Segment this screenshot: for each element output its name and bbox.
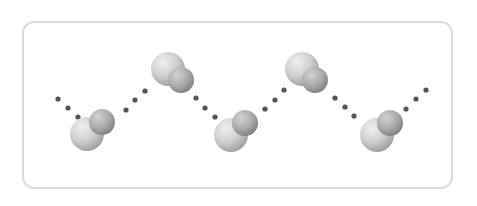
bond-dot: [123, 107, 128, 112]
hydrogen-atom: [232, 110, 258, 136]
bond-dot: [281, 87, 286, 92]
water-chain-diagram: [0, 0, 477, 206]
bond-dot: [193, 95, 198, 100]
water-molecule: [285, 52, 328, 93]
water-molecules: [70, 52, 403, 152]
bond-dot: [65, 105, 70, 110]
bond-dot: [423, 87, 428, 92]
bond-dot: [202, 105, 207, 110]
bond-dot: [272, 97, 277, 102]
hydrogen-bond: [193, 95, 217, 119]
bond-dot: [262, 106, 267, 111]
bond-dot: [55, 96, 60, 101]
bond-dot: [403, 106, 408, 111]
water-molecule: [214, 110, 258, 152]
hydrogen-bond: [403, 87, 428, 111]
bond-dot: [142, 88, 147, 93]
hydrogen-atom: [302, 67, 328, 93]
hydrogen-bond: [332, 95, 356, 118]
bond-dot: [332, 95, 337, 100]
bond-dot: [413, 96, 418, 101]
bond-dot: [212, 114, 217, 119]
hydrogen-bond: [55, 96, 80, 119]
bond-dot: [351, 113, 356, 118]
bond-dot: [132, 97, 137, 102]
hydrogen-atom: [89, 109, 115, 135]
hydrogen-bond: [262, 87, 286, 111]
water-molecule: [360, 110, 403, 152]
hydrogen-bond: [123, 88, 147, 112]
bond-dot: [342, 104, 347, 109]
water-molecule: [151, 52, 194, 93]
hydrogen-atom: [168, 67, 194, 93]
hydrogen-atom: [377, 110, 403, 136]
